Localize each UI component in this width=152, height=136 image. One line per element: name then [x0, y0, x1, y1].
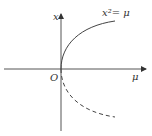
horizontal-axis-label: μ	[132, 71, 139, 82]
upper-solid-branch	[61, 21, 115, 69]
lower-dashed-branch	[61, 69, 115, 117]
origin-label: O	[50, 72, 58, 83]
vertical-axis-label: x	[53, 11, 59, 22]
curve-equation-label: x²= μ	[102, 7, 130, 18]
bifurcation-diagram: x μ O x²= μ	[0, 0, 152, 136]
